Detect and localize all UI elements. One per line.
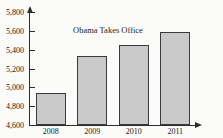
- x-axis-arrow-icon: [195, 122, 202, 128]
- bar: [77, 56, 107, 125]
- chart-figure: U.S. Annual Production of Oil 4,6004,800…: [0, 0, 223, 138]
- y-axis-tick-label: 4,600: [6, 121, 24, 130]
- y-axis-tick-label: 5,000: [6, 83, 24, 92]
- tick-mark: [30, 125, 35, 126]
- x-axis-label: 2010: [126, 127, 142, 136]
- x-axis-label: 2009: [84, 127, 100, 136]
- y-axis-tick-label: 5,200: [6, 64, 24, 73]
- y-axis-tick-label: 5,600: [6, 26, 24, 35]
- x-axis-label: 2011: [167, 127, 183, 136]
- y-axis-tick-label: 4,800: [6, 102, 24, 111]
- bar: [119, 45, 149, 125]
- x-axis-line: [29, 125, 196, 126]
- annotation-obama-takes-office: Obama Takes Office: [73, 25, 143, 35]
- x-axis-label: 2008: [43, 127, 59, 136]
- bar: [160, 32, 190, 125]
- plot-area: 4,6004,8005,0005,2005,4005,6005,800 2008…: [29, 8, 223, 138]
- y-axis-tick-label: 5,800: [6, 8, 24, 17]
- y-axis-tick-label: 5,400: [6, 45, 24, 54]
- chart-title: U.S. Annual Production of Oil: [0, 0, 223, 2]
- bar: [36, 93, 66, 125]
